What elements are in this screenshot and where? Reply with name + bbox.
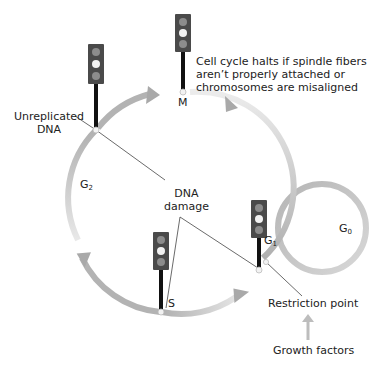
label-unreplicated-dna: Unreplicated DNA (14, 110, 84, 136)
growth-factors-arrow (302, 314, 314, 340)
cell-cycle-diagram: Unreplicated DNA Cell cycle halts if spi… (0, 0, 370, 368)
m-note-line2: aren’t properly attached or (196, 68, 367, 81)
m-note-line3: chromosomes are misaligned (196, 81, 367, 94)
label-dna-damage: DNA damage (164, 187, 209, 213)
label-restriction-point: Restriction point (268, 297, 358, 310)
g0-sub: 0 (348, 228, 352, 236)
g1-base: G (264, 234, 273, 247)
label-phase-g0: G0 (339, 222, 352, 237)
label-phase-s: S (168, 297, 175, 310)
label-phase-g1: G1 (264, 234, 277, 249)
checkpoint-m-traffic-light (175, 14, 191, 95)
dna-damage-line1: DNA (164, 187, 209, 200)
m-note-line1: Cell cycle halts if spindle fibers (196, 55, 367, 68)
dna-damage-line2: damage (164, 200, 209, 213)
label-growth-factors: Growth factors (273, 344, 354, 357)
label-phase-g2: G2 (80, 178, 93, 193)
g2-base: G (80, 178, 89, 191)
label-unreplicated-line1: Unreplicated (14, 110, 84, 123)
leader-dna-damage-to-g1 (180, 217, 258, 268)
label-unreplicated-line2: DNA (14, 123, 84, 136)
g2-sub: 2 (89, 184, 93, 192)
arc-s-to-g2 (82, 258, 160, 312)
arc-g2-to-m (98, 94, 150, 128)
label-phase-m: M (178, 96, 188, 109)
restriction-point-marker (263, 259, 268, 264)
leader-unreplicated-to-dna-damage (96, 130, 165, 180)
arrowhead-g2-m (146, 86, 160, 104)
g1-sub: 1 (273, 240, 277, 248)
g0-base: G (339, 222, 348, 235)
label-m-checkpoint-note: Cell cycle halts if spindle fibers aren’… (196, 55, 367, 94)
